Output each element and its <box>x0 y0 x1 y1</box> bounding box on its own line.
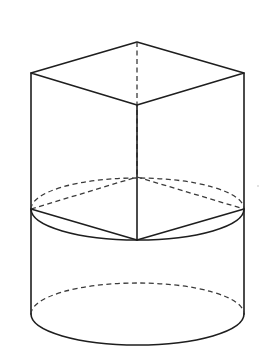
bottom-ellipse-front-arc <box>31 314 244 345</box>
bottom-ellipse-back-arc <box>31 283 244 314</box>
scan-speck <box>257 185 259 187</box>
cube-on-cylinder-diagram <box>0 0 263 352</box>
